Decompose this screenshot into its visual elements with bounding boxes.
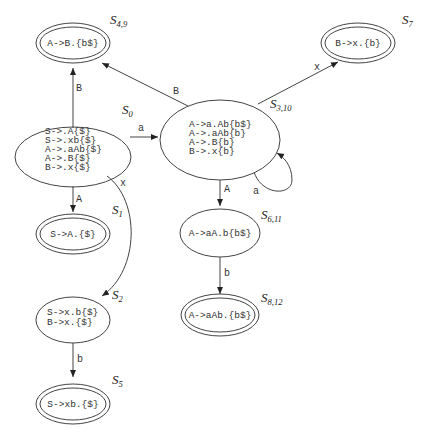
edge-label-s310-s7: x	[314, 62, 320, 73]
state-s1: S->A.{$} S1	[36, 202, 123, 254]
edge-label-s0-s310: a	[138, 123, 144, 134]
state-s3-10-label: S3,10	[270, 96, 292, 113]
state-s2: S->x.b{$} B->x.{$} S2	[36, 287, 124, 343]
edge-s310-s49	[102, 63, 188, 106]
state-s1-label: S1	[112, 202, 123, 219]
state-s0-item-4: B->.x{$}	[45, 162, 91, 173]
state-s2-item-1: B->x.{$}	[47, 317, 93, 328]
state-s0-label: S0	[122, 102, 134, 119]
state-s6-11-item: A->aA.b{b$}	[189, 228, 252, 239]
state-s4-9-label: S4,9	[110, 12, 128, 29]
edge-label-s310-self: a	[253, 186, 259, 197]
state-s5-item: S->xb.{$}	[47, 399, 98, 410]
state-s6-11: A->aA.b{b$} S6,11	[180, 207, 282, 257]
state-s8-12-label: S8,12	[261, 290, 283, 307]
state-s2-label: S2	[112, 287, 124, 304]
edge-label-s310-s49: B	[173, 86, 179, 97]
state-s5-label: S5	[112, 372, 123, 389]
state-s0: S->.A{$} S->.xb{$} A->.aAb{$} A->.B{$} B…	[15, 102, 134, 187]
state-s8-12: A->aAb.{b$} S8,12	[181, 290, 283, 336]
lr-automaton-diagram: B a A x b B x a A b A->B.{b$} S4,9	[0, 0, 432, 443]
state-s5: S->xb.{$} S5	[36, 372, 123, 424]
edge-label-s2-s5: b	[77, 354, 83, 365]
edges: B a A x b B x a A b	[73, 62, 338, 377]
edge-label-s0-s49: B	[76, 83, 82, 94]
state-s6-11-label: S6,11	[261, 207, 282, 224]
edge-label-s0-s1: A	[76, 194, 82, 205]
state-s4-9-item: A->B.{b$}	[47, 38, 98, 49]
state-s4-9: A->B.{b$} S4,9	[36, 12, 128, 63]
state-s7: B->x.{b} S7	[321, 12, 414, 63]
edge-label-s0-s2: x	[120, 178, 126, 189]
edge-label-s611-s812: b	[224, 268, 230, 279]
state-s7-item: B->x.{b}	[335, 38, 381, 49]
state-s7-label: S7	[402, 12, 414, 29]
edge-label-s310-s611: A	[224, 184, 230, 195]
state-s3-10-item-3: B->.x{b}	[189, 146, 235, 157]
state-s8-12-item: A->aAb.{b$}	[189, 310, 252, 321]
state-s3-10: A->a.Ab{b$} A->.aAb{b} A->.B{b} B->.x{b}…	[160, 96, 292, 180]
edge-s0-s2	[102, 176, 131, 296]
state-s1-item: S->A.{$}	[50, 229, 96, 240]
